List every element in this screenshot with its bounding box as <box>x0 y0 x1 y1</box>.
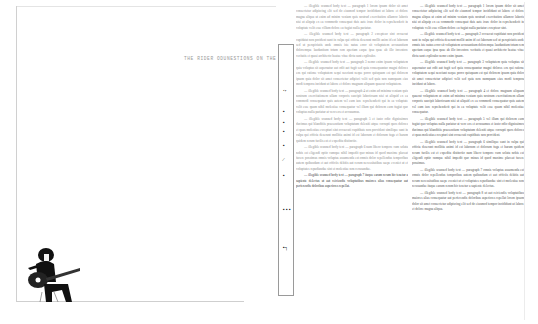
sidebar-glyph: ▪┐ <box>283 245 288 250</box>
paragraph: — illegible scanned body text — paragrap… <box>412 60 524 87</box>
paragraph: — illegible scanned body text — paragrap… <box>296 145 408 172</box>
sidebar-glyph: ▪ <box>283 143 285 148</box>
paragraph: — illegible scanned body text — paragrap… <box>296 32 408 59</box>
paragraph: — illegible scanned body text — paragrap… <box>412 89 524 116</box>
sidebar-glyph: ▪ <box>283 173 285 178</box>
paragraph: — illegible scanned body text — paragrap… <box>412 4 524 31</box>
paragraph: — illegible scanned body text — paragrap… <box>296 89 408 116</box>
sidebar-glyph: ▪ <box>283 129 285 134</box>
sidebar-glyph: ▪ <box>283 120 285 125</box>
paragraph: — illegible scanned body text — paragrap… <box>412 168 524 190</box>
paragraph: — illegible scanned body text — paragrap… <box>412 140 524 167</box>
sidebar-glyph: ▪ <box>283 109 285 114</box>
sidebar-glyph: ▪ ▪ ▪ <box>283 207 291 212</box>
sidebar-glyph: ‘’ <box>283 89 286 94</box>
paragraph: — illegible scanned body text — paragrap… <box>412 191 524 213</box>
vertical-sidebar-box: ‘’ ▪ ▪ ▪ ▪ ⁄ ▪ ▪ ▪ ▪ ▪┐ <box>278 44 294 296</box>
paragraph: — illegible scanned body text — paragrap… <box>296 60 408 87</box>
left-border <box>16 6 17 302</box>
paragraph: — illegible scanned body text — paragrap… <box>296 4 408 31</box>
guitarist-photo-icon <box>18 238 82 302</box>
article-title: THE RIDER ODUNESTIONS ON THE ROCK <box>184 56 293 61</box>
right-text-column: — illegible scanned body text — paragrap… <box>412 4 524 322</box>
sidebar-glyph: ⁄ <box>283 157 284 162</box>
paragraph: — illegible scanned body text — paragrap… <box>412 117 524 139</box>
paragraph: — illegible scanned body text — paragrap… <box>296 173 408 189</box>
paragraph: — illegible scanned body text — paragrap… <box>412 32 524 59</box>
top-border <box>16 6 276 7</box>
paragraph: — illegible scanned body text — paragrap… <box>296 117 408 144</box>
right-border <box>524 2 525 320</box>
middle-text-column: — illegible scanned body text — paragrap… <box>296 4 408 300</box>
